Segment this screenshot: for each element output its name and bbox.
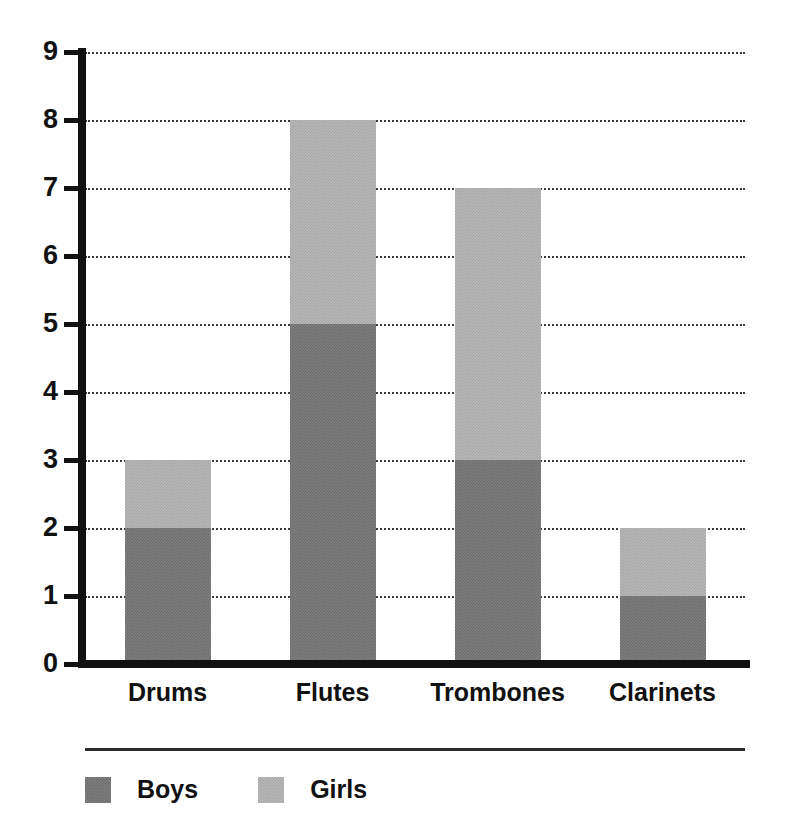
- y-axis-tick-label: 6: [24, 242, 58, 269]
- y-axis-tick: [64, 390, 80, 395]
- x-axis-category-label: Trombones: [415, 678, 580, 707]
- legend-swatch: [85, 777, 111, 803]
- legend-label: Girls: [310, 775, 367, 804]
- x-axis-spine: [78, 660, 750, 668]
- y-axis-tick-label: 0: [24, 650, 58, 677]
- y-axis-tick: [64, 118, 80, 123]
- bar-group: [125, 52, 211, 664]
- x-axis-category-label: Clarinets: [580, 678, 745, 707]
- legend: BoysGirls: [85, 775, 367, 804]
- bar-segment: [455, 188, 541, 460]
- bar-segment: [455, 460, 541, 664]
- legend-item[interactable]: Girls: [258, 775, 367, 804]
- y-axis-tick-label: 3: [24, 446, 58, 473]
- bar-segment: [125, 460, 211, 528]
- bar-segment: [290, 120, 376, 324]
- legend-swatch: [258, 777, 284, 803]
- y-axis-tick-label: 4: [24, 378, 58, 405]
- y-axis-spine: [78, 48, 86, 668]
- legend-divider: [85, 748, 745, 751]
- y-axis-tick: [64, 594, 80, 599]
- legend-label: Boys: [137, 775, 198, 804]
- x-axis-category-label: Flutes: [250, 678, 415, 707]
- y-axis-tick-label: 8: [24, 106, 58, 133]
- y-axis-tick: [64, 526, 80, 531]
- y-axis-tick: [64, 458, 80, 463]
- y-axis-tick-label: 9: [24, 38, 58, 65]
- x-axis-category-label: Drums: [85, 678, 250, 707]
- y-axis-tick: [64, 662, 80, 667]
- y-axis-tick: [64, 322, 80, 327]
- bar-group: [455, 52, 541, 664]
- bar-group: [620, 52, 706, 664]
- y-axis-tick-label: 7: [24, 174, 58, 201]
- y-axis-tick: [64, 254, 80, 259]
- y-axis-tick-label: 2: [24, 514, 58, 541]
- bar-segment: [620, 596, 706, 664]
- y-axis-tick-label: 1: [24, 582, 58, 609]
- bar-segment: [125, 528, 211, 664]
- bar-group: [290, 52, 376, 664]
- bar-segment: [290, 324, 376, 664]
- y-axis-tick-label: 5: [24, 310, 58, 337]
- plot-area: [85, 52, 745, 664]
- y-axis-tick: [64, 186, 80, 191]
- legend-item[interactable]: Boys: [85, 775, 198, 804]
- stacked-bar-chart: 9876543210 DrumsFlutesTrombonesClarinets…: [0, 0, 785, 837]
- bar-segment: [620, 528, 706, 596]
- y-axis-tick: [64, 50, 80, 55]
